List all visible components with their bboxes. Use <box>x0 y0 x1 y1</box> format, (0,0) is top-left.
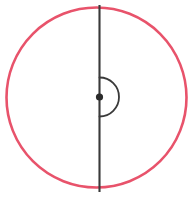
geometry-figure <box>0 0 194 197</box>
figure-canvas <box>0 0 194 197</box>
center-point-dot <box>96 93 103 100</box>
